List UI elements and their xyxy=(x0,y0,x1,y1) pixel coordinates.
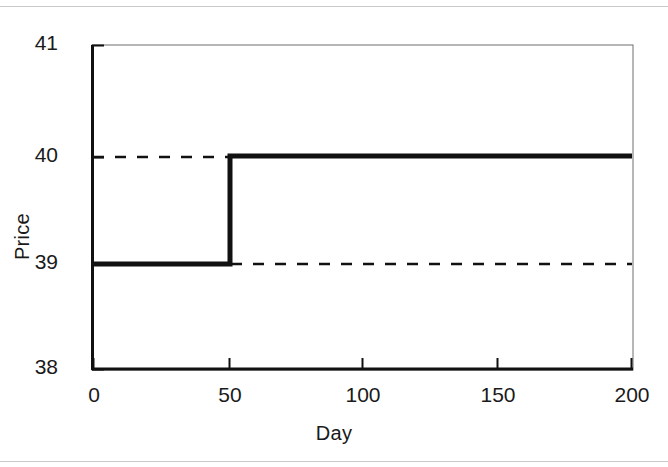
price-step-chart-figure: 41 40 39 38 0 50 100 150 200 Day Price xyxy=(0,0,668,467)
y-tick-label-38: 38 xyxy=(14,355,58,379)
x-tick-label-0: 0 xyxy=(54,383,134,407)
x-axis-title: Day xyxy=(0,422,668,445)
x-tick-label-200: 200 xyxy=(592,383,668,407)
y-axis-title: Price xyxy=(11,197,34,277)
y-tick-label-40: 40 xyxy=(14,143,58,167)
x-tick-label-150: 150 xyxy=(458,383,538,407)
price-step-series xyxy=(93,156,632,264)
x-axis-ticks xyxy=(94,358,632,369)
x-tick-label-50: 50 xyxy=(190,383,270,407)
x-tick-label-100: 100 xyxy=(323,383,403,407)
y-tick-label-41: 41 xyxy=(14,31,58,55)
plot-frame-box xyxy=(92,45,633,370)
